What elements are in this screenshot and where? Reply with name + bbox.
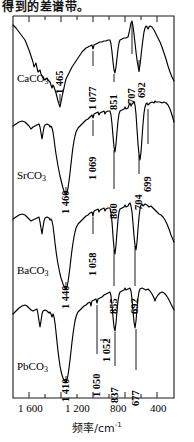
- peak-label-caco3-1465: 1 465: [54, 70, 65, 94]
- peak-label-srco3-1460: 1 460: [60, 190, 71, 214]
- x-axis-title: 频率/cm-1: [0, 419, 194, 435]
- peak-label-caco3-851: 851: [108, 94, 119, 110]
- xtick-label-400: 400: [150, 402, 167, 414]
- peak-label-caco3-692: 692: [136, 82, 147, 98]
- series-label-caco3: CaCO3: [17, 72, 49, 86]
- x-axis-title-exponent: -1: [115, 421, 122, 429]
- xtick-label-1200: 1 200: [65, 402, 90, 414]
- peak-label-pbco3-677: 677: [130, 390, 141, 406]
- x-axis-title-text: 频率/cm: [72, 422, 114, 435]
- ir-spectra-figure: 得到的差谱带。: [0, 0, 194, 442]
- peak-label-caco3-1077: 1 077: [87, 86, 98, 110]
- peak-label-baco3-1440: 1 440: [60, 285, 71, 309]
- top-ticks: [29, 16, 157, 22]
- peak-label-pbco3-1050: 1 050: [91, 373, 102, 397]
- peak-label-pbco3-1410: 1 410: [60, 378, 71, 402]
- peak-label-pbco3-1052: 1 052: [101, 338, 112, 362]
- peak-label-baco3-1058: 1 058: [87, 252, 98, 276]
- series-label-pbco3: PbCO3: [17, 360, 48, 374]
- peak-label-srco3-704: 704: [133, 194, 144, 211]
- peak-label-srco3-699: 699: [142, 176, 153, 192]
- series-label-baco3: BaCO3: [17, 264, 49, 278]
- caption-text: 得到的差谱带。: [2, 0, 90, 14]
- peak-label-baco3-692: 692: [129, 298, 140, 314]
- peak-label-srco3-1069: 1 069: [87, 156, 98, 180]
- series-label-srco3: SrCO3: [17, 169, 46, 183]
- xtick-label-800: 800: [110, 402, 127, 414]
- spectra-plot: CaCO3 1 465 1 077 851 707 692 SrCO3 1 46…: [0, 14, 194, 414]
- xtick-label-1600: 1 600: [18, 402, 43, 414]
- peak-label-srco3-860: 860: [108, 203, 119, 219]
- peak-label-pbco3-837: 837: [109, 387, 120, 403]
